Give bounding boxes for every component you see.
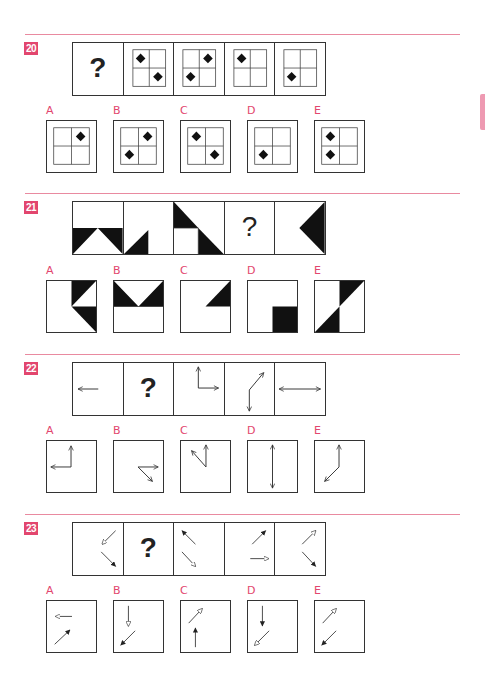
diamond-grid-icon: [124, 43, 174, 95]
arrow-left-icon: [73, 363, 123, 415]
option-label-c: C: [180, 264, 188, 277]
option-b[interactable]: [113, 600, 164, 653]
option-e[interactable]: [314, 280, 365, 333]
question-number-badge: 20: [24, 42, 38, 55]
section-divider: [25, 34, 460, 35]
option-e[interactable]: [314, 120, 365, 173]
option-b[interactable]: [113, 280, 164, 333]
square-shape-icon: [248, 281, 297, 332]
arrow-bent-icon: [225, 363, 275, 415]
arrow-pair-icon: [315, 601, 364, 652]
option-label-e: E: [314, 104, 321, 117]
option-c[interactable]: [180, 280, 231, 333]
option-label-a: A: [46, 104, 54, 117]
diamond-grid-icon: [225, 43, 275, 95]
question-mark: ?: [73, 52, 123, 84]
triangle-shape-icon: [181, 281, 230, 332]
option-a[interactable]: [46, 440, 97, 493]
option-c[interactable]: [180, 600, 231, 653]
question-22-sequence: ?: [72, 362, 326, 416]
option-label-e: E: [314, 264, 321, 277]
option-d[interactable]: [247, 120, 298, 173]
arrow-pair-icon: [73, 523, 123, 575]
option-a[interactable]: [46, 600, 97, 653]
option-b[interactable]: [113, 440, 164, 493]
diamond-grid-icon: [248, 121, 297, 172]
arrow-pair-icon: [275, 523, 325, 575]
option-d[interactable]: [247, 280, 298, 333]
option-label-b: B: [113, 104, 121, 117]
sequence-cell: [174, 363, 225, 415]
option-a[interactable]: [46, 120, 97, 173]
option-label-a: A: [46, 584, 54, 597]
option-e[interactable]: [314, 440, 365, 493]
sequence-cell: [225, 523, 276, 575]
question-21-sequence: ?: [72, 201, 326, 255]
sequence-cell: [275, 43, 325, 95]
sequence-cell-unknown: ?: [73, 43, 124, 95]
diamond-grid-icon: [174, 43, 224, 95]
question-number-badge: 22: [24, 362, 38, 375]
option-label-d: D: [247, 424, 255, 437]
option-b[interactable]: [113, 120, 164, 173]
question-20-sequence: ?: [72, 42, 326, 96]
sequence-cell: [174, 202, 225, 254]
arrow-bent-icon: [114, 441, 163, 492]
triangle-shape-icon: [114, 281, 163, 332]
diamond-grid-icon: [275, 43, 325, 95]
sequence-cell: [73, 202, 124, 254]
sequence-cell: [275, 202, 325, 254]
option-label-d: D: [247, 264, 255, 277]
sequence-cell: [73, 363, 124, 415]
sequence-cell: [174, 43, 225, 95]
question-number-badge: 21: [24, 201, 38, 214]
sequence-cell-unknown: ?: [225, 202, 276, 254]
triangle-shape-icon: [124, 202, 174, 254]
arrow-bent-icon: [315, 441, 364, 492]
diamond-grid-icon: [181, 121, 230, 172]
section-divider: [25, 514, 460, 515]
section-divider: [25, 193, 460, 194]
triangle-shape-icon: [315, 281, 364, 332]
option-label-b: B: [113, 264, 121, 277]
option-c[interactable]: [180, 440, 231, 493]
sequence-cell: [275, 523, 325, 575]
question-23-sequence: ?: [72, 522, 326, 576]
option-a[interactable]: [46, 280, 97, 333]
triangle-shape-icon: [47, 281, 96, 332]
option-d[interactable]: [247, 440, 298, 493]
diamond-grid-icon: [47, 121, 96, 172]
option-label-b: B: [113, 584, 121, 597]
question-mark: ?: [225, 211, 275, 243]
option-label-c: C: [180, 424, 188, 437]
question-number-badge: 23: [24, 522, 38, 535]
sequence-cell-unknown: ?: [124, 523, 175, 575]
sequence-cell: [275, 363, 325, 415]
arrow-corner-icon: [174, 363, 224, 415]
option-label-a: A: [46, 264, 54, 277]
option-c[interactable]: [180, 120, 231, 173]
option-label-b: B: [113, 424, 121, 437]
triangle-shape-icon: [73, 202, 123, 254]
arrow-pair-icon: [248, 601, 297, 652]
sequence-cell: [73, 523, 124, 575]
sequence-cell: [225, 363, 276, 415]
option-label-d: D: [247, 584, 255, 597]
sequence-cell: [174, 523, 225, 575]
arrow-pair-icon: [181, 601, 230, 652]
arrow-double-horizontal-icon: [275, 363, 325, 415]
arrow-bent-icon: [181, 441, 230, 492]
sequence-cell-unknown: ?: [124, 363, 175, 415]
option-e[interactable]: [314, 600, 365, 653]
diamond-grid-icon: [114, 121, 163, 172]
option-label-e: E: [314, 584, 321, 597]
arrow-corner-icon: [47, 441, 96, 492]
option-label-d: D: [247, 104, 255, 117]
option-label-c: C: [180, 104, 188, 117]
arrow-pair-icon: [174, 523, 224, 575]
option-d[interactable]: [247, 600, 298, 653]
sequence-cell: [124, 43, 175, 95]
sequence-cell: [225, 43, 276, 95]
section-divider: [25, 354, 460, 355]
triangle-shape-icon: [174, 202, 224, 254]
